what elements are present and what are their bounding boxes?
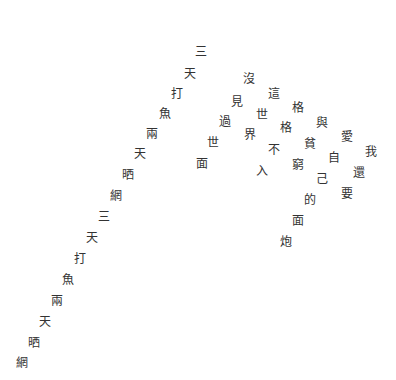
- character: 炮: [279, 235, 293, 249]
- character: 天: [183, 67, 197, 81]
- character: 沒: [242, 72, 256, 86]
- character: 三: [194, 45, 208, 59]
- character: 己: [315, 172, 329, 186]
- character: 魚: [158, 107, 172, 121]
- character: 界: [243, 128, 257, 142]
- character: 格: [291, 101, 305, 115]
- character: 要: [340, 187, 354, 201]
- character: 晒: [27, 336, 41, 350]
- character: 過: [218, 115, 232, 129]
- character: 三: [97, 210, 111, 224]
- character: 見: [230, 95, 244, 109]
- character: 世: [255, 108, 269, 122]
- character: 網: [109, 189, 123, 203]
- character: 窮: [291, 158, 305, 172]
- character: 打: [73, 252, 87, 266]
- character: 天: [38, 315, 52, 329]
- character: 與: [315, 116, 329, 130]
- character: 兩: [50, 294, 64, 308]
- character: 自: [327, 151, 341, 165]
- character: 晒: [121, 168, 135, 182]
- character: 入: [255, 164, 269, 178]
- character: 魚: [61, 273, 75, 287]
- character: 天: [133, 147, 147, 161]
- character: 天: [85, 231, 99, 245]
- character: 還: [352, 166, 366, 180]
- character: 面: [291, 214, 305, 228]
- character: 格: [279, 121, 293, 135]
- character: 這: [267, 87, 281, 101]
- character: 不: [267, 143, 281, 157]
- character: 世: [206, 136, 220, 150]
- character: 我: [364, 145, 378, 159]
- character: 面: [195, 157, 209, 171]
- character: 網: [15, 356, 29, 370]
- character: 愛: [340, 130, 354, 144]
- character: 貧: [303, 137, 317, 151]
- character: 的: [303, 193, 317, 207]
- poem-canvas: 三天打魚兩天晒網三天打魚兩天晒網沒見過世面這世界格格不入與貧窮愛自己的面炮我還要: [0, 0, 396, 380]
- character: 打: [170, 87, 184, 101]
- character: 兩: [145, 127, 159, 141]
